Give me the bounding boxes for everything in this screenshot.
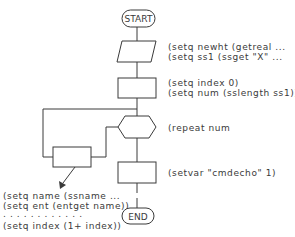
init-step: (setq index 0) (setq num (sslength ss1)) [118, 78, 295, 98]
input-step-line-2: (setq ss1 (ssget "X" ... [168, 52, 283, 62]
init-step-line-1: (setq index 0) [168, 78, 239, 88]
loop-body-line-4: (setq index (1+ index)) [3, 221, 121, 231]
setvar-step-label: (setvar "cmdecho" 1) [168, 168, 276, 178]
loop-body-ellipsis: . . . . . . . . . . . . [3, 209, 83, 219]
loop-entry-line [91, 127, 118, 157]
end-label: END [128, 212, 147, 222]
init-step-line-2: (setq num (sslength ss1)) [168, 88, 295, 98]
start-terminal: START [122, 10, 155, 27]
loop-body-line-1: (setq name (ssname ... [3, 191, 120, 201]
input-step-line-1: (setq newht (getreal ... [168, 42, 286, 52]
input-step: (setq newht (getreal ... (setq ss1 (ssge… [117, 41, 286, 62]
loop-body-step [53, 147, 91, 167]
repeat-step-label: (repeat num [168, 123, 230, 133]
loop-body-arrow [59, 167, 75, 189]
end-terminal: END [122, 208, 154, 224]
start-label: START [125, 14, 153, 24]
flowchart: START (setq newht (getreal ... (setq ss1… [0, 0, 295, 237]
repeat-step: (repeat num [118, 116, 230, 138]
setvar-step: (setvar "cmdecho" 1) [118, 162, 276, 183]
